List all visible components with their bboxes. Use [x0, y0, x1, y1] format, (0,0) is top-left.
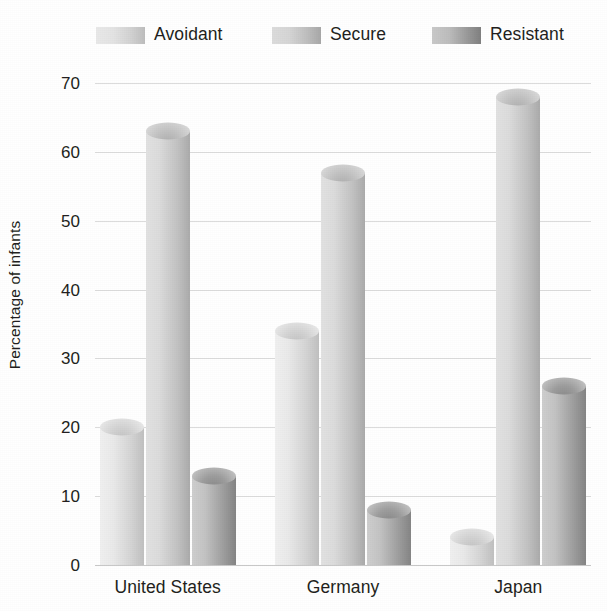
bar-top-ellipse [100, 419, 144, 436]
bar-body [192, 476, 236, 566]
x-tick-label: Germany [307, 578, 380, 596]
bar-united-states-resistant [192, 476, 236, 566]
y-axis-title-text: Percentage of infants [6, 220, 24, 369]
bar-japan-avoidant [450, 537, 494, 565]
x-tick-label: Japan [494, 578, 542, 596]
y-axis-tick-labels: 010203040506070 [28, 0, 88, 611]
bar-chart: Avoidant Secure Resistant Percentage of … [0, 0, 607, 611]
legend-label-secure: Secure [330, 26, 386, 44]
y-tick-label: 50 [36, 212, 88, 229]
bar-body [100, 427, 144, 565]
y-tick-label: 20 [36, 419, 88, 436]
gridline [95, 83, 591, 84]
bar-germany-secure [321, 173, 365, 565]
legend-item-resistant: Resistant [432, 22, 564, 48]
bar-japan-secure [496, 97, 540, 565]
plot-area [95, 83, 591, 565]
y-tick-label: 60 [36, 143, 88, 160]
bar-top-ellipse [146, 123, 190, 140]
x-tick-label: United States [114, 578, 220, 596]
chart-legend: Avoidant Secure Resistant [0, 22, 607, 48]
bar-body [146, 131, 190, 565]
bar-japan-resistant [542, 386, 586, 565]
bar-top-ellipse [192, 467, 236, 484]
bar-body [496, 97, 540, 565]
legend-item-secure: Secure [272, 22, 386, 48]
bar-germany-avoidant [275, 331, 319, 565]
bar-top-ellipse [542, 377, 586, 394]
bar-body [275, 331, 319, 565]
legend-label-avoidant: Avoidant [154, 26, 223, 44]
bar-body [542, 386, 586, 565]
y-tick-label: 70 [36, 75, 88, 92]
y-tick-label: 10 [36, 488, 88, 505]
legend-item-avoidant: Avoidant [96, 22, 223, 48]
y-tick-label: 40 [36, 281, 88, 298]
bar-top-ellipse [321, 164, 365, 181]
bar-top-ellipse [496, 88, 540, 105]
legend-label-resistant: Resistant [490, 26, 564, 44]
y-axis-title: Percentage of infants [2, 0, 28, 611]
legend-swatch-avoidant [96, 27, 145, 44]
legend-swatch-resistant [432, 27, 481, 44]
bar-top-ellipse [450, 529, 494, 546]
bar-united-states-avoidant [100, 427, 144, 565]
axis-baseline [95, 565, 591, 566]
bar-top-ellipse [275, 322, 319, 339]
bar-united-states-secure [146, 131, 190, 565]
y-tick-label: 30 [36, 350, 88, 367]
y-tick-label: 0 [36, 557, 88, 574]
bar-germany-resistant [367, 510, 411, 565]
bar-body [321, 173, 365, 565]
legend-swatch-secure [272, 27, 321, 44]
bar-top-ellipse [367, 501, 411, 518]
